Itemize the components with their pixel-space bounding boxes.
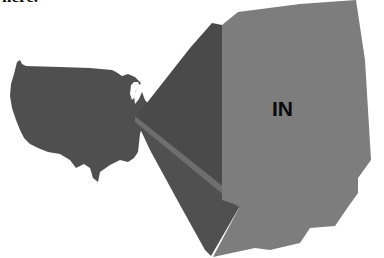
map-zoom-diagram (0, 0, 384, 258)
usa-map (10, 60, 150, 182)
diagram-canvas: here. IN (0, 0, 384, 258)
state-outline-indiana (213, 0, 371, 257)
great-lakes (130, 82, 140, 100)
state-label: IN (272, 97, 293, 121)
